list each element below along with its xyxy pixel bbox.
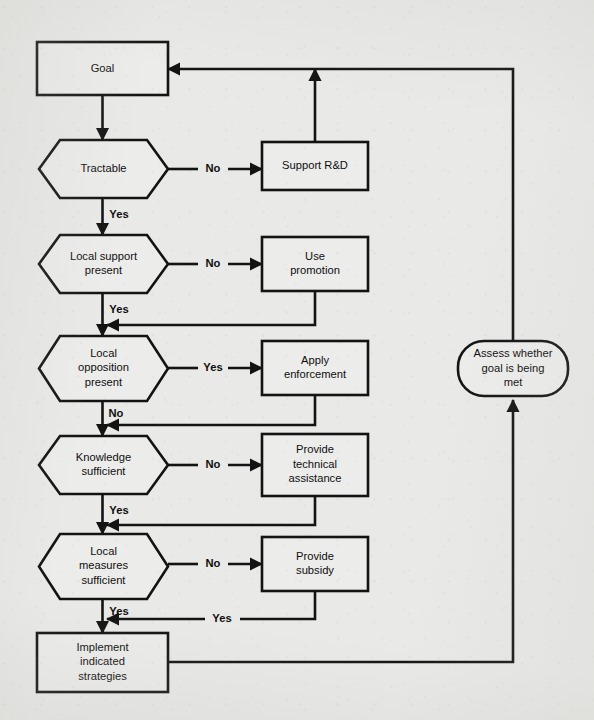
node-local-support-label-1: present	[85, 264, 123, 276]
edge-label-local-opposition-no: No	[109, 407, 124, 419]
node-local-measures-sufficient[interactable]: Local measures sufficient	[39, 534, 168, 599]
node-knowledge-label-0: Knowledge	[76, 451, 131, 463]
node-technical-assistance-label-2: assistance	[289, 472, 342, 484]
edge-label-knowledge-no: No	[206, 458, 221, 470]
edge-label-subsidy-yes: Yes	[212, 612, 231, 624]
node-technical-assistance-label-0: Provide	[296, 443, 334, 455]
edge-label-local-opposition-yes: Yes	[203, 361, 222, 373]
node-technical-assistance-label-1: technical	[293, 458, 337, 470]
edge-assess-to-goal	[168, 69, 513, 341]
edge-label-local-measures-yes: Yes	[109, 605, 128, 617]
edge-label-local-support-yes: Yes	[109, 303, 128, 315]
node-apply-enforcement-label-0: Apply	[301, 354, 329, 366]
node-local-measures-label-2: sufficient	[82, 574, 127, 586]
node-assess-label-0: Assess whether	[474, 347, 553, 359]
edge-label-tractable-no: No	[206, 162, 221, 174]
node-assess-goal[interactable]: Assess whether goal is being met	[458, 341, 568, 396]
node-local-opposition-label-2: present	[85, 376, 123, 388]
node-local-measures-label-1: measures	[79, 559, 129, 571]
node-local-opposition-label-1: opposition	[78, 361, 129, 373]
node-local-support-label-0: Local support	[70, 250, 138, 262]
node-implement-indicated-strategies[interactable]: Implement indicated strategies	[37, 633, 168, 692]
flowchart-canvas: Goal Tractable Support R&D Local support…	[0, 0, 594, 720]
node-local-opposition-present[interactable]: Local opposition present	[39, 336, 168, 401]
node-knowledge-label-1: sufficient	[82, 465, 127, 477]
node-use-promotion[interactable]: Use promotion	[262, 237, 368, 291]
node-provide-subsidy-label-1: subsidy	[296, 564, 334, 576]
node-implement-label-0: Implement	[76, 641, 129, 653]
node-goal-label-0: Goal	[91, 62, 115, 74]
flowchart-diagram: Goal Tractable Support R&D Local support…	[0, 0, 594, 720]
node-provide-subsidy[interactable]: Provide subsidy	[262, 537, 368, 591]
node-local-opposition-label-0: Local	[90, 347, 117, 359]
edge-provide-subsidy-yes-return-a	[240, 591, 315, 619]
node-provide-technical-assistance[interactable]: Provide technical assistance	[262, 434, 368, 496]
node-goal[interactable]: Goal	[37, 42, 168, 95]
node-local-support-present[interactable]: Local support present	[39, 235, 168, 293]
node-local-measures-label-0: Local	[90, 545, 117, 557]
node-use-promotion-label-1: promotion	[290, 264, 340, 276]
edge-label-local-measures-no: No	[206, 557, 221, 569]
node-support-rd[interactable]: Support R&D	[262, 142, 368, 190]
node-implement-label-2: strategies	[78, 670, 127, 682]
node-apply-enforcement[interactable]: Apply enforcement	[262, 341, 368, 395]
edge-label-knowledge-yes: Yes	[109, 504, 128, 516]
edge-label-local-support-no: No	[206, 257, 221, 269]
node-implement-label-1: indicated	[80, 655, 125, 667]
node-layer: Goal Tractable Support R&D Local support…	[37, 42, 568, 692]
node-assess-label-1: goal is being	[482, 362, 545, 374]
node-provide-subsidy-label-0: Provide	[296, 550, 334, 562]
node-knowledge-sufficient[interactable]: Knowledge sufficient	[39, 436, 168, 494]
edge-label-tractable-yes: Yes	[109, 208, 128, 220]
node-use-promotion-label-0: Use	[305, 250, 325, 262]
edge-technical-assistance-return	[107, 496, 315, 525]
node-apply-enforcement-label-1: enforcement	[284, 368, 347, 380]
edge-use-promotion-return	[107, 291, 315, 325]
node-tractable-label-0: Tractable	[80, 162, 126, 174]
node-support-rd-label-0: Support R&D	[282, 159, 348, 171]
node-assess-label-2: met	[504, 376, 524, 388]
node-tractable[interactable]: Tractable	[39, 140, 168, 198]
